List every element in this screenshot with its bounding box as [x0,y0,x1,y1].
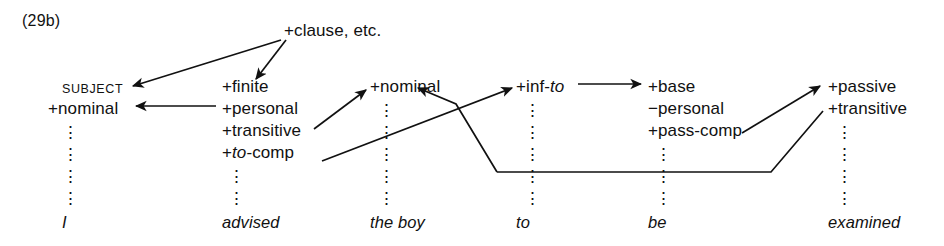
feature-base: +base [648,78,695,95]
feature-to-comp: +to-comp [222,144,294,161]
feature-dependency-diagram: (29b) +clause, etc. SUBJECT +nominal ⋮ ⋮… [0,0,944,246]
root-node-clause: +clause, etc. [284,22,381,39]
dots-col6-r6: ⋮ [836,190,853,207]
feature-passive: +passive [828,78,896,95]
word-be: be [648,214,667,231]
feature-transitive-examined: +transitive [828,100,907,117]
word-the-boy: the boy [370,214,425,231]
dots-col3-r2: ⋮ [378,102,395,119]
arrow-object-control-to-nominal [418,88,497,172]
dots-col6-r5: ⋮ [836,168,853,185]
example-number-label: (29b) [22,12,60,29]
dots-col6-r4: ⋮ [836,146,853,163]
dots-col4-r4: ⋮ [524,146,541,163]
feature-nominal-subject: +nominal [48,100,118,117]
feature-inf-to: +inf-to [516,78,564,95]
dots-col5-r5: ⋮ [655,168,672,185]
dots-col3-r3: ⋮ [378,124,395,141]
dots-col3-r4: ⋮ [378,146,395,163]
dots-col1-r4: ⋮ [62,146,79,163]
dots-col5-r6: ⋮ [655,190,672,207]
dots-col3-r5: ⋮ [378,168,395,185]
arrow-clause-to-finite [256,40,286,79]
word-i: I [62,214,67,231]
word-examined: examined [828,214,900,231]
dots-col1-r3: ⋮ [62,124,79,141]
word-advised: advised [222,214,280,231]
arrow-transitive-to-nominal-object [314,90,366,129]
feature-minus-personal: −personal [648,100,724,117]
arrow-layer [0,0,944,246]
dots-col1-r6: ⋮ [62,190,79,207]
dots-col6-r3: ⋮ [836,124,853,141]
dots-col4-r6: ⋮ [524,190,541,207]
dots-col4-r3: ⋮ [524,124,541,141]
word-to: to [516,214,530,231]
dots-col3-r6: ⋮ [378,190,395,207]
feature-transitive-advised: +transitive [222,122,301,139]
dots-col2-r5: ⋮ [228,168,245,185]
dots-col5-r4: ⋮ [655,146,672,163]
feature-pass-comp: +pass-comp [648,122,742,139]
dots-col4-r2: ⋮ [524,102,541,119]
feature-personal: +personal [222,100,298,117]
feature-nominal-object: +nominal [370,78,440,95]
subject-function-label: SUBJECT [62,81,123,98]
arrow-to-comp-to-inf-to [322,88,512,161]
dots-col4-r5: ⋮ [524,168,541,185]
dots-col1-r5: ⋮ [62,168,79,185]
arrow-pass-comp-to-passive [742,86,820,133]
feature-finite: +finite [222,78,269,95]
dots-col2-r6: ⋮ [228,190,245,207]
